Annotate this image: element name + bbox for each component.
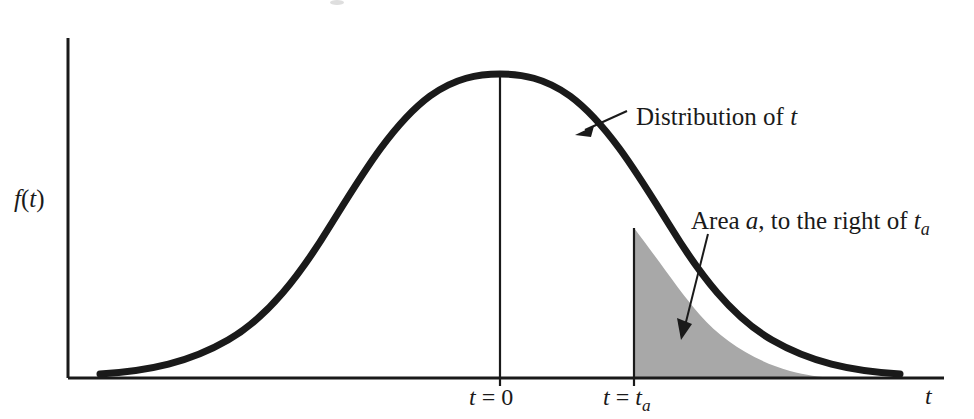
tick-label-t-zero-eq: =	[476, 384, 502, 410]
tick-label-t-zero-var: t	[469, 384, 476, 410]
x-axis-label: t	[925, 384, 932, 408]
area-label-subscript: a	[921, 219, 930, 239]
area-label: Area a, to the right of ta	[691, 208, 930, 238]
tick-label-t-alpha: t = ta	[603, 385, 651, 414]
tick-label-t-alpha-var: t	[603, 384, 610, 410]
tick-label-t-zero: t = 0	[469, 385, 513, 409]
area-label-var-t: t	[914, 207, 921, 234]
tick-label-t-alpha-value: t	[635, 384, 642, 410]
y-axis-label-close: )	[36, 185, 44, 212]
distribution-label-text: Distribution of	[636, 103, 790, 130]
distribution-label: Distribution of t	[636, 104, 797, 129]
tick-label-t-alpha-eq: =	[610, 384, 636, 410]
y-axis-label: f(t)	[14, 186, 45, 211]
y-axis-label-f: f	[14, 185, 21, 212]
area-label-pre: Area	[691, 207, 746, 234]
x-axis-label-var: t	[925, 383, 932, 409]
tick-label-t-zero-value: 0	[501, 384, 513, 410]
area-label-var-a: a	[746, 207, 759, 234]
tick-label-t-alpha-subscript: a	[642, 396, 651, 415]
area-label-mid: , to the right of	[758, 207, 914, 234]
distribution-label-var: t	[790, 103, 797, 130]
t-distribution-figure: f(t) Distribution of t Area a, to the ri…	[0, 0, 974, 419]
